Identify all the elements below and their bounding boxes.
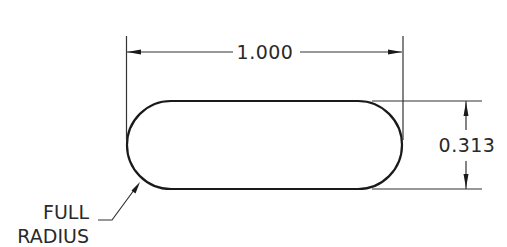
left-arrowhead-icon bbox=[127, 50, 141, 55]
width-dimension-label: 0.313 bbox=[439, 134, 496, 156]
full-radius-note: FULL RADIUS bbox=[17, 182, 140, 247]
length-dimension: 1.000 bbox=[127, 36, 404, 140]
slot-outline bbox=[127, 101, 402, 189]
note-line-full: FULL bbox=[43, 201, 89, 223]
length-dimension-label: 1.000 bbox=[237, 41, 294, 63]
leader-line bbox=[98, 186, 137, 220]
right-arrowhead-icon bbox=[388, 50, 402, 55]
slot-drawing: 1.000 0.313 FULL RADIUS bbox=[0, 0, 507, 247]
bottom-arrowhead-icon bbox=[464, 174, 469, 188]
top-arrowhead-icon bbox=[464, 102, 469, 116]
note-line-radius: RADIUS bbox=[17, 225, 89, 247]
